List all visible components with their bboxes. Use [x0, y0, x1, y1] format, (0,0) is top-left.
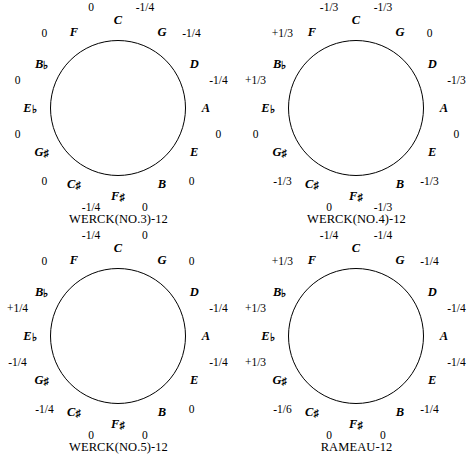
note-label: B♭: [273, 286, 286, 299]
fifth-deviation-value: -1/4: [35, 404, 54, 416]
sharp-icon: ♯: [44, 375, 50, 387]
note-label: E: [428, 374, 436, 387]
fifth-deviation-value: -1/4: [182, 29, 201, 41]
note-letter: E: [428, 145, 436, 159]
note-letter: G: [35, 373, 44, 387]
note-label: B♭: [35, 286, 48, 299]
fifth-deviation-value: 0: [42, 176, 48, 188]
note-letter: G: [157, 253, 166, 267]
note-letter: G: [157, 25, 166, 39]
fifth-deviation-value: -1/4: [447, 303, 466, 315]
fifth-deviation-value: +1/3: [245, 357, 266, 369]
sharp-icon: ♯: [119, 419, 125, 431]
note-label: E♭: [261, 102, 274, 115]
fifth-deviation-value: -1/4: [447, 357, 466, 369]
fifth-deviation-value: +1/4: [7, 303, 28, 315]
diagram-caption: WERCK(NO.3)-12: [0, 212, 237, 227]
note-label: A: [440, 102, 448, 115]
fifth-deviation-value: 0: [427, 29, 433, 41]
fifths-circle-outline: [288, 268, 424, 404]
note-label: C♯: [305, 406, 319, 419]
sharp-icon: ♯: [75, 407, 81, 419]
note-label: F: [308, 26, 316, 39]
fifth-deviation-value: -1/3: [273, 176, 292, 188]
fifth-deviation-value: +1/3: [245, 75, 266, 87]
sharp-icon: ♯: [75, 179, 81, 191]
note-letter: G: [395, 253, 404, 267]
temperament-circle-werck-no4: C-1/3G0D-1/3A0E-1/3B-1/3F♯0C♯-1/3G♯0E♭+1…: [238, 0, 475, 227]
note-label: E♭: [23, 330, 36, 343]
fifth-deviation-value: 0: [15, 129, 21, 141]
fifth-deviation-value: -1/3: [374, 2, 393, 14]
note-label: D: [190, 286, 199, 299]
note-label: A: [202, 330, 210, 343]
sharp-icon: ♯: [119, 191, 125, 203]
note-label: G♯: [35, 146, 50, 159]
fifth-deviation-value: +1/3: [272, 29, 293, 41]
note-label: B: [158, 178, 166, 191]
note-label: F♯: [111, 190, 125, 203]
sharp-icon: ♯: [282, 375, 288, 387]
flat-icon: ♭: [43, 59, 48, 71]
note-letter: G: [35, 145, 44, 159]
note-letter: B: [396, 177, 404, 191]
note-label: E: [190, 374, 198, 387]
fifth-deviation-value: -1/3: [320, 2, 339, 14]
fifth-deviation-value: 0: [253, 129, 259, 141]
note-letter: B: [396, 405, 404, 419]
note-letter: G: [273, 145, 282, 159]
sharp-icon: ♯: [313, 407, 319, 419]
note-label: G: [157, 26, 166, 39]
fifths-circle-outline: [50, 268, 186, 404]
diagram-caption: RAMEAU-12: [238, 440, 475, 455]
note-label: E♭: [261, 330, 274, 343]
fifth-deviation-value: 0: [42, 257, 48, 269]
flat-icon: ♭: [43, 287, 48, 299]
fifth-deviation-value: -1/4: [82, 230, 101, 242]
note-letter: E: [190, 145, 198, 159]
fifth-deviation-value: -1/4: [420, 257, 439, 269]
note-letter: E: [428, 373, 436, 387]
note-letter: D: [190, 285, 199, 299]
sharp-icon: ♯: [357, 419, 363, 431]
note-letter: F: [70, 253, 78, 267]
flat-icon: ♭: [281, 59, 286, 71]
fifth-deviation-value: 0: [454, 129, 460, 141]
temperament-circle-rameau: C-1/4G-1/4D-1/4A-1/4E-1/4B0F♯0C♯-1/6G♯+1…: [238, 228, 475, 455]
temperament-circle-werck-no3: C-1/4G-1/4D-1/4A0E0B0F♯-1/4C♯0G♯0E♭0B♭0F…: [0, 0, 237, 227]
fifth-deviation-value: -1/4: [374, 230, 393, 242]
note-letter: B: [158, 177, 166, 191]
sharp-icon: ♯: [313, 179, 319, 191]
note-label: F♯: [349, 190, 363, 203]
fifth-deviation-value: -1/3: [420, 176, 439, 188]
fifth-deviation-value: 0: [42, 29, 48, 41]
temperament-circle-werck-no5: C0G0D-1/4A-1/4E0B0F♯0C♯-1/4G♯-1/4E♭+1/4B…: [0, 228, 237, 455]
note-label: F: [308, 254, 316, 267]
note-label: B: [158, 406, 166, 419]
fifth-deviation-value: 0: [189, 257, 195, 269]
flat-icon: ♭: [270, 103, 275, 115]
note-label: B♭: [35, 58, 48, 71]
note-letter: A: [440, 101, 448, 115]
note-letter: F: [308, 253, 316, 267]
diagram-caption: WERCK(NO.5)-12: [0, 440, 237, 455]
fifth-deviation-value: 0: [216, 129, 222, 141]
fifth-deviation-value: 0: [142, 230, 148, 242]
fifth-deviation-value: -1/6: [273, 404, 292, 416]
sharp-icon: ♯: [44, 147, 50, 159]
note-label: E: [190, 146, 198, 159]
note-label: G♯: [273, 146, 288, 159]
note-letter: D: [190, 57, 199, 71]
flat-icon: ♭: [281, 287, 286, 299]
note-letter: D: [428, 57, 437, 71]
diagram-caption: WERCK(NO.4)-12: [238, 212, 475, 227]
note-letter: B: [158, 405, 166, 419]
note-label: G♯: [35, 374, 50, 387]
circle-diagram: C0G0D-1/4A-1/4E0B0F♯0C♯-1/4G♯-1/4E♭+1/4B…: [0, 228, 237, 455]
note-letter: E: [190, 373, 198, 387]
flat-icon: ♭: [32, 331, 37, 343]
circle-diagram: C-1/4G-1/4D-1/4A-1/4E-1/4B0F♯0C♯-1/6G♯+1…: [238, 228, 475, 455]
fifth-deviation-value: 0: [88, 2, 94, 14]
fifth-deviation-value: -1/4: [209, 357, 228, 369]
note-label: D: [190, 58, 199, 71]
